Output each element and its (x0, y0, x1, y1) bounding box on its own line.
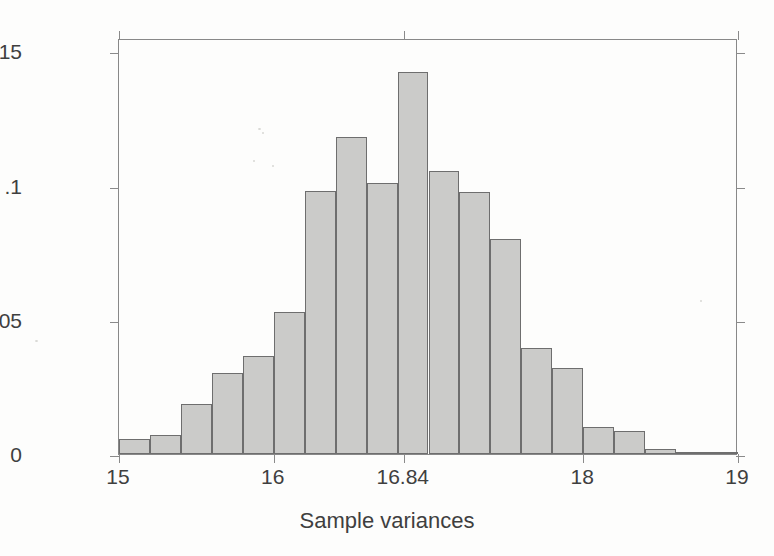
x-axis-tick-label: 18 (571, 466, 594, 488)
histogram-bar (150, 435, 181, 454)
scan-speckle (253, 160, 255, 162)
histogram-bar (707, 452, 738, 454)
histogram-bar (459, 192, 490, 454)
x-axis-tick (404, 454, 405, 463)
x-axis-tick-mirror (738, 31, 739, 40)
y-axis-tick (110, 456, 119, 457)
x-axis-tick-label: 16.84 (376, 466, 429, 488)
scan-speckle (35, 340, 38, 342)
scan-speckle (700, 300, 702, 302)
y-axis-tick-label: 0 (0, 444, 22, 465)
plot-area (119, 40, 736, 454)
y-axis-tick (110, 53, 119, 54)
scan-speckle (262, 132, 264, 134)
histogram-bar (645, 449, 676, 454)
histogram-bar (274, 312, 305, 454)
y-axis-tick (110, 322, 119, 323)
x-axis-tick (119, 454, 120, 463)
histogram-bar (305, 191, 336, 454)
x-axis-tick-label: 19 (725, 466, 748, 488)
histogram-bar (490, 239, 521, 454)
histogram-bar (521, 348, 552, 454)
histogram-bar (212, 373, 243, 454)
scan-speckle (272, 165, 274, 167)
y-axis-tick-mirror (736, 322, 745, 323)
histogram-bar (119, 439, 150, 454)
histogram-bar (676, 452, 707, 454)
histogram-bar (243, 356, 274, 454)
x-axis-tick (274, 454, 275, 463)
x-axis-tick (738, 454, 739, 463)
y-axis-tick-label: .05 (0, 310, 22, 331)
histogram-bar (181, 404, 212, 454)
x-axis-tick (583, 454, 584, 463)
plot-frame (118, 39, 737, 455)
histogram-bar (552, 368, 583, 454)
y-axis-tick-mirror (736, 53, 745, 54)
x-axis-tick-label: 15 (106, 466, 129, 488)
x-axis-tick-mirror (404, 31, 405, 40)
x-axis-tick-mirror (119, 31, 120, 40)
histogram-bar (614, 431, 645, 454)
y-axis-tick-label: .15 (0, 41, 22, 62)
histogram-bar (336, 137, 367, 454)
scan-speckle (258, 128, 261, 130)
x-axis-tick-label: 16 (261, 466, 284, 488)
histogram-bar (398, 72, 429, 454)
histogram-bar (583, 427, 614, 454)
histogram-bar (429, 171, 460, 454)
y-axis-tick (110, 188, 119, 189)
histogram-bar (367, 183, 398, 454)
y-axis-tick-label: .1 (0, 176, 22, 197)
histogram-figure: Fraction Sample variances 0.05.1.1515161… (0, 0, 774, 556)
x-axis-title: Sample variances (0, 508, 774, 534)
y-axis-tick-mirror (736, 188, 745, 189)
